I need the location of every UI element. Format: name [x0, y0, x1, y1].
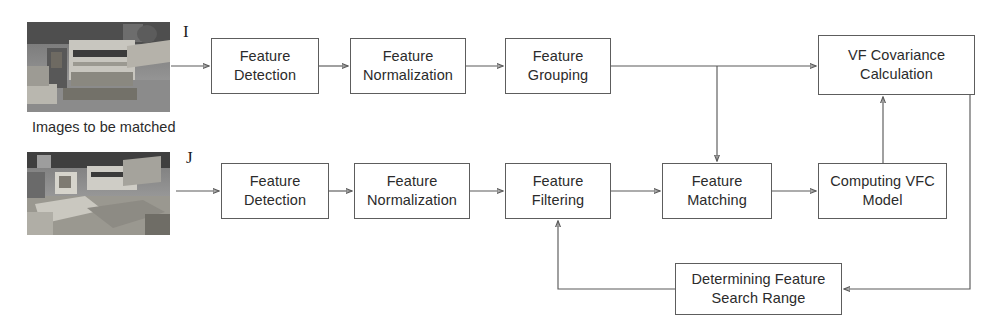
node-label: Feature Detection	[240, 172, 310, 210]
node-label: Computing VFC Model	[826, 172, 938, 210]
node-feature-detection-j[interactable]: Feature Detection	[221, 163, 329, 219]
flowchart-diagram: Feature Detection Feature Normalization …	[0, 0, 998, 332]
input-label-i: I	[183, 22, 189, 42]
node-feature-normalization-j[interactable]: Feature Normalization	[354, 163, 470, 219]
node-label: Feature Normalization	[359, 47, 457, 85]
node-vf-covariance[interactable]: VF Covariance Calculation	[818, 35, 975, 95]
node-label: Determining Feature Search Range	[687, 270, 829, 308]
node-feature-normalization-i[interactable]: Feature Normalization	[350, 38, 466, 94]
image-j-thumbnail	[27, 152, 170, 235]
node-label: Feature Normalization	[363, 172, 461, 210]
node-computing-vfc-model[interactable]: Computing VFC Model	[818, 163, 947, 219]
node-label: Feature Matching	[683, 172, 751, 210]
images-caption: Images to be matched	[32, 119, 175, 135]
input-label-j: J	[186, 148, 193, 168]
node-feature-detection-i[interactable]: Feature Detection	[211, 38, 319, 94]
node-label: VF Covariance Calculation	[844, 46, 949, 84]
image-i-thumbnail	[27, 22, 170, 112]
node-feature-filtering[interactable]: Feature Filtering	[505, 163, 611, 219]
node-feature-grouping[interactable]: Feature Grouping	[505, 38, 611, 94]
node-label: Feature Filtering	[528, 172, 588, 210]
node-label: Feature Detection	[230, 47, 300, 85]
node-determining-search-range[interactable]: Determining Feature Search Range	[675, 263, 842, 315]
node-feature-matching[interactable]: Feature Matching	[662, 163, 772, 219]
edge-search-range-to-filtering	[558, 221, 675, 289]
node-label: Feature Grouping	[524, 47, 592, 85]
